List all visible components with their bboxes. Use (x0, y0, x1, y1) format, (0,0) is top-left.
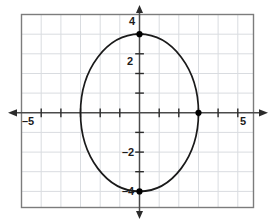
x-tick-label-neg5: –5 (22, 116, 34, 127)
x-axis-arrow-right (259, 109, 268, 116)
y-axis-arrow-down (136, 211, 143, 219)
y-axis-arrow-up (136, 5, 143, 13)
x-tick-label-pos5: 5 (240, 116, 246, 127)
point-0-neg4 (136, 188, 142, 194)
point-0-4 (136, 31, 142, 37)
y-tick-label-neg2: –2 (122, 147, 134, 158)
graph-figure: –5 5 4 2 –2 –4 (0, 0, 274, 221)
y-tick-label-neg4: –4 (122, 186, 134, 197)
y-tick-label-pos4: 4 (129, 16, 135, 27)
x-axis-arrow-left (8, 109, 17, 116)
point-3-0 (195, 110, 201, 116)
coordinate-plane-svg (0, 0, 274, 221)
y-tick-label-pos2: 2 (127, 56, 133, 67)
